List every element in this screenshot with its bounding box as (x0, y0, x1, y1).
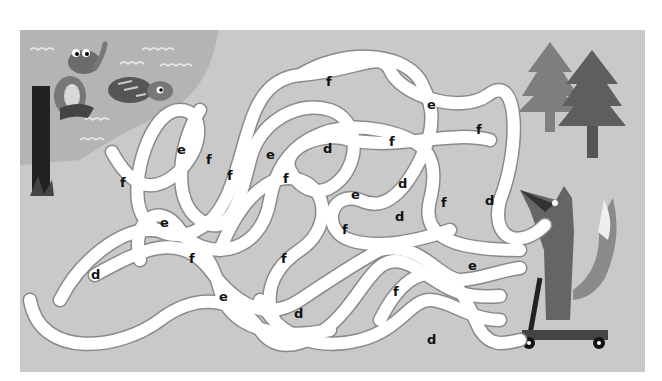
maze-letter-e: e (219, 290, 228, 303)
maze-letter-f: f (393, 285, 399, 298)
maze-letter-d: d (395, 210, 404, 223)
maze-letter-e: e (160, 216, 169, 229)
maze-letter-e: e (427, 98, 436, 111)
maze-letter-d: d (427, 333, 436, 346)
maze-panel (20, 30, 645, 372)
maze-letter-f: f (389, 135, 395, 148)
maze-letter-d: d (323, 142, 332, 155)
maze-letter-f: f (441, 196, 447, 209)
fox-on-scooter-icon (520, 186, 617, 349)
pine-trees-icon (518, 42, 626, 158)
maze-letter-e: e (468, 259, 477, 272)
maze-letter-d: d (398, 177, 407, 190)
maze-letter-f: f (326, 75, 332, 88)
maze-letter-e: e (266, 148, 275, 161)
maze-letter-f: f (206, 153, 212, 166)
maze-letter-d: d (91, 268, 100, 281)
maze-illustration (20, 30, 645, 372)
maze-letter-f: f (476, 123, 482, 136)
maze-letter-f: f (281, 252, 287, 265)
maze-letter-f: f (283, 172, 289, 185)
maze-letter-d: d (294, 307, 303, 320)
maze-letter-f: f (189, 252, 195, 265)
maze-letter-d: d (485, 194, 494, 207)
maze-letter-e: e (351, 188, 360, 201)
maze-letter-f: f (120, 176, 126, 189)
maze-letter-f: f (227, 169, 233, 182)
maze-letter-e: e (177, 143, 186, 156)
maze-letter-f: f (342, 223, 348, 236)
